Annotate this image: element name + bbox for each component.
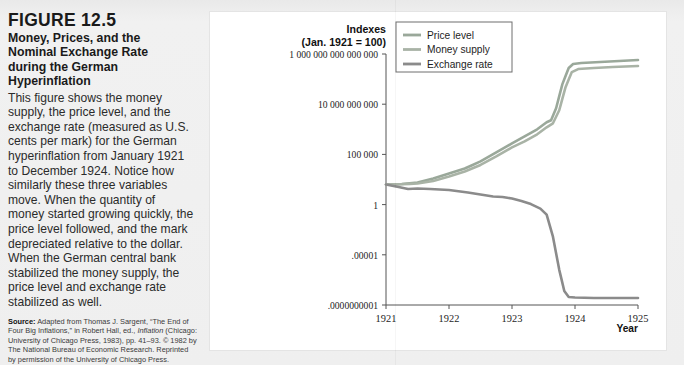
source-label: Source: (8, 317, 36, 326)
figure-container: FIGURE 12.5 Money, Prices, and the Nomin… (0, 0, 684, 365)
x-tick-label: 1922 (439, 313, 460, 324)
source-title-italic: Inflation (137, 326, 163, 335)
y-tick-label: 10 000 000 000 (318, 99, 378, 110)
chart-legend: Price levelMoney supplyExchange rate (396, 22, 512, 72)
hyperinflation-line-chart: Indexes (Jan. 1921 = 100) 1 000 000 000 … (210, 12, 666, 350)
y-tick-label: .00001 (352, 250, 379, 261)
y-axis-title-line2: (Jan. 1921 = 100) (301, 36, 386, 48)
legend-label: Exchange rate (427, 59, 493, 70)
x-tick-label: 1924 (565, 313, 587, 324)
chart-panel: Indexes (Jan. 1921 = 100) 1 000 000 000 … (210, 12, 666, 350)
figure-number: FIGURE 12.5 (8, 10, 204, 30)
y-tick-label: .0000000001 (328, 300, 379, 311)
y-axis-title-line1: Indexes (347, 23, 387, 35)
y-tick-label: 1 000 000 000 000 000 (289, 49, 378, 60)
figure-source-note: Source: Adapted from Thomas J. Sargent, … (8, 317, 198, 365)
y-tick-label: 1 (373, 200, 378, 211)
legend-label: Money supply (427, 44, 491, 55)
figure-caption-column: FIGURE 12.5 Money, Prices, and the Nomin… (8, 10, 204, 360)
y-tick-label: 100 000 (347, 149, 378, 160)
legend-label: Price level (427, 30, 474, 41)
figure-description: This figure shows the money supply, the … (8, 91, 194, 310)
x-axis-title: Year (616, 323, 638, 334)
x-tick-label: 1921 (376, 313, 397, 324)
figure-title: Money, Prices, and the Nominal Exchange … (8, 31, 186, 89)
x-tick-label: 1923 (502, 313, 523, 324)
